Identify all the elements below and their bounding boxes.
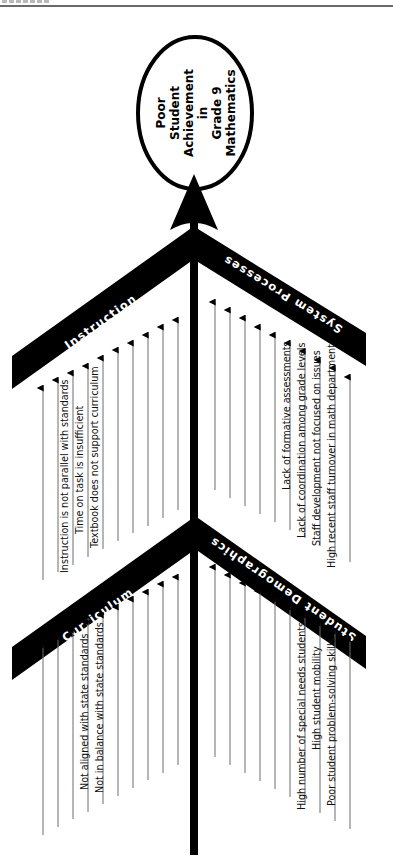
effect-node: Poor Student Achievement in Grade 9 Math… bbox=[138, 37, 252, 189]
cause-text: Not aligned with state standards bbox=[79, 633, 90, 790]
effect-line-4: in bbox=[196, 107, 210, 120]
category-system-processes: System Processes Lack of formative asses… bbox=[198, 229, 366, 568]
effect-line-3: Achievement bbox=[182, 69, 196, 157]
cause-text: Staff development not focused on issues bbox=[311, 350, 322, 546]
category-curriculum: Curriculum Not aligned with state standa… bbox=[12, 520, 190, 835]
effect-line-6: Mathematics bbox=[224, 69, 238, 156]
cause-text: Textbook does not support curriculum bbox=[89, 366, 100, 549]
category-instruction: Instruction Instruction is not parallel … bbox=[12, 229, 190, 580]
cause-text: Lack of coordination among grade levels bbox=[296, 343, 307, 538]
cause-text: High recent staff turnover in math depar… bbox=[326, 344, 337, 568]
fishbone-diagram: Poor Student Achievement in Grade 9 Math… bbox=[0, 0, 393, 867]
cause-text: High student mobility bbox=[311, 646, 322, 750]
effect-line-2: Student bbox=[168, 86, 182, 140]
cause-text: Time on task is insufficient bbox=[74, 405, 85, 535]
bone-label-system-processes: System Processes bbox=[220, 252, 345, 336]
cause-text: Not in balance with state standards bbox=[94, 622, 105, 793]
cause-text: Lack of formative assessments bbox=[281, 341, 292, 490]
spine bbox=[170, 174, 218, 855]
effect-line-1: Poor bbox=[154, 97, 168, 128]
cause-text: High number of special needs students bbox=[296, 622, 307, 810]
effect-line-5: Grade 9 bbox=[210, 86, 224, 139]
cause-text: Instruction is not parallel with standar… bbox=[59, 379, 70, 573]
category-student-demographics: Student Demographics High number of spec… bbox=[198, 518, 366, 829]
cause-text: Poor student problem-solving skills bbox=[326, 638, 337, 806]
